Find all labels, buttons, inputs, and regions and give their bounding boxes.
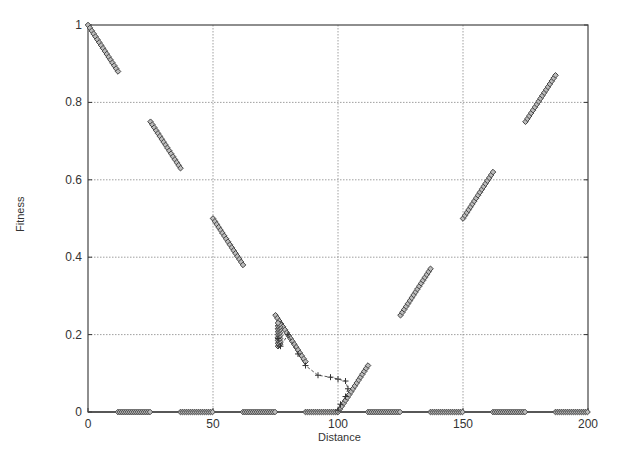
x-tick-label: 150 bbox=[453, 417, 473, 431]
y-tick-label: 0.2 bbox=[65, 328, 82, 342]
y-tick-label: 0 bbox=[75, 405, 82, 419]
plus-marker bbox=[328, 374, 334, 380]
x-tick-label: 100 bbox=[328, 417, 348, 431]
y-tick-label: 1 bbox=[75, 18, 82, 32]
plus-marker bbox=[343, 378, 349, 384]
y-tick-label: 0.4 bbox=[65, 250, 82, 264]
x-tick-label: 50 bbox=[206, 417, 220, 431]
y-axis-label: Fitness bbox=[14, 197, 26, 232]
x-axis-label: Distance bbox=[318, 431, 361, 443]
y-tick-label: 0.6 bbox=[65, 173, 82, 187]
plus-marker bbox=[335, 376, 341, 382]
trajectory-line bbox=[278, 335, 348, 410]
y-tick-label: 0.8 bbox=[65, 95, 82, 109]
x-tick-label: 0 bbox=[85, 417, 92, 431]
fitness-distance-chart: 05010015020000.20.40.60.81 bbox=[0, 0, 621, 459]
x-tick-label: 200 bbox=[578, 417, 598, 431]
